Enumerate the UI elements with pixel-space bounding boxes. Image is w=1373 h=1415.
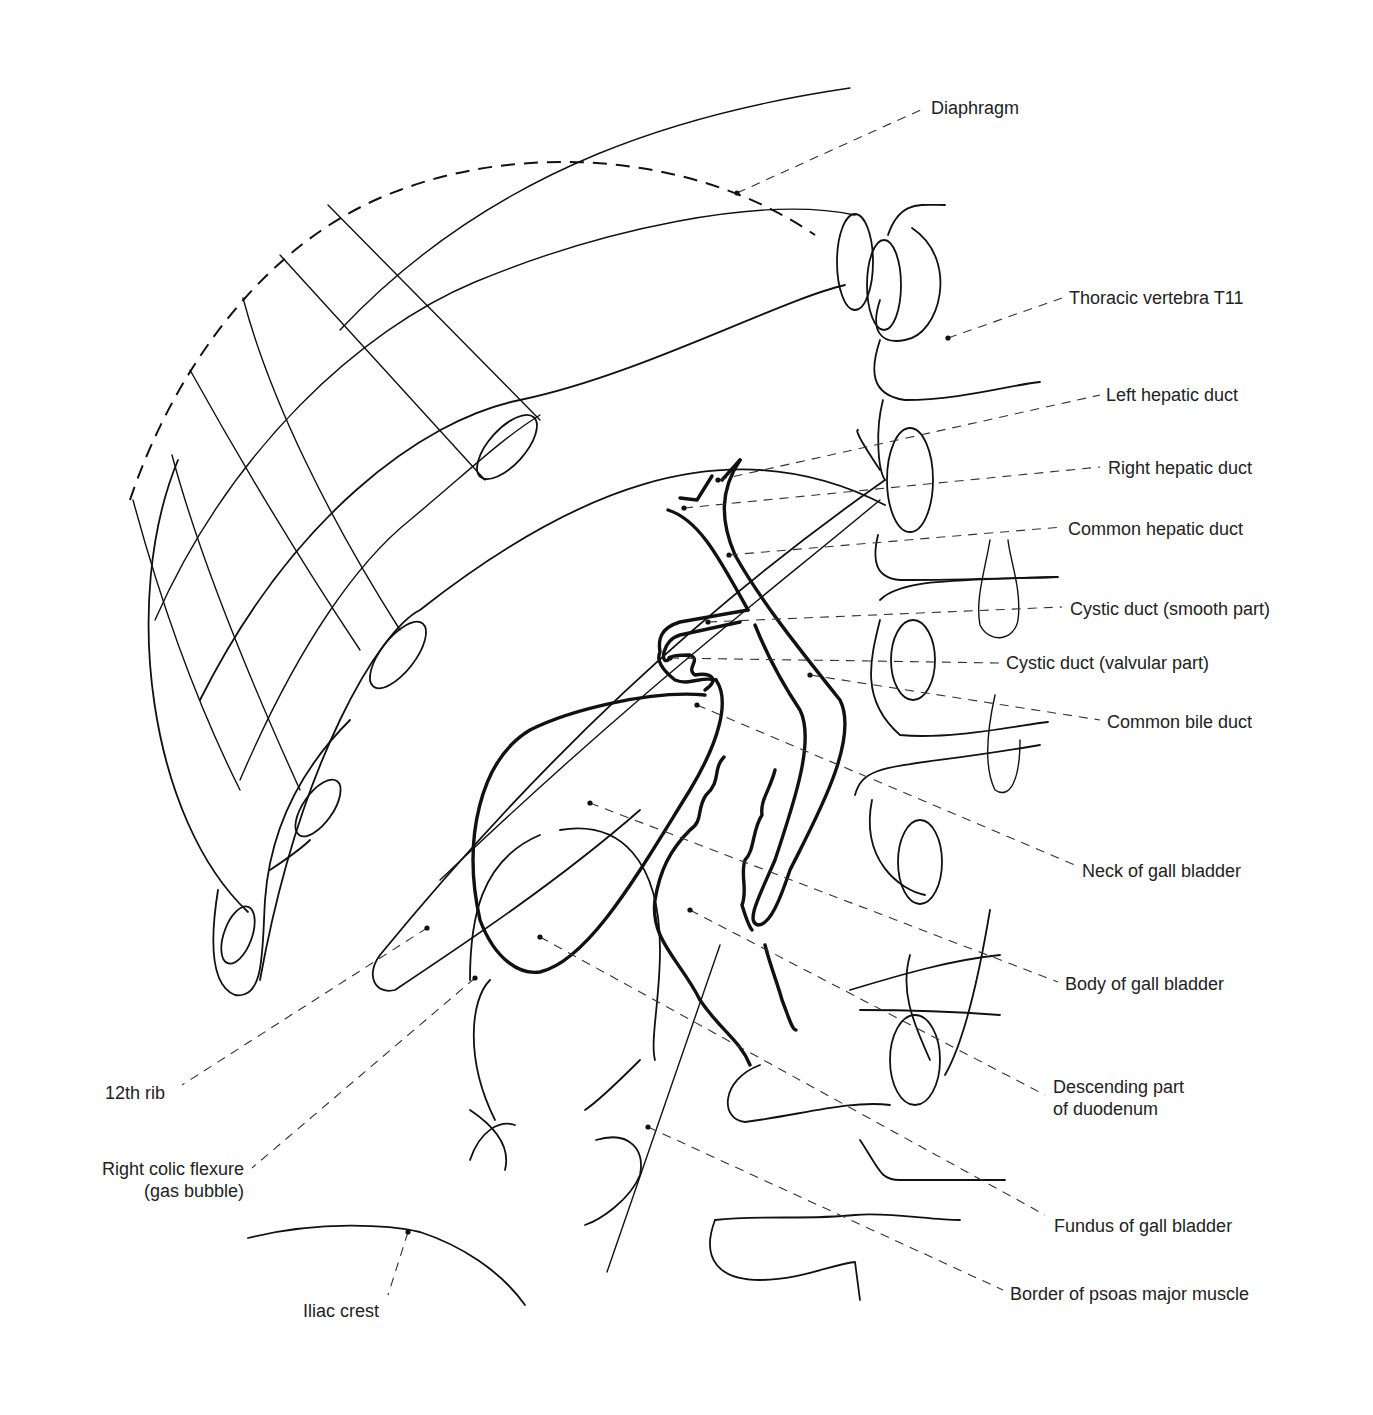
label-body-of-gall-bladder: Body of gall bladder	[1065, 973, 1224, 995]
label-iliac-crest: Iliac crest	[303, 1300, 379, 1322]
label-descending-duodenum: Descending part of duodenum	[1053, 1076, 1184, 1120]
label-neck-of-gall-bladder: Neck of gall bladder	[1082, 860, 1241, 882]
label-fundus-of-gall-bladder: Fundus of gall bladder	[1054, 1215, 1232, 1237]
label-twelfth-rib: 12th rib	[105, 1082, 165, 1104]
label-border-psoas: Border of psoas major muscle	[1010, 1283, 1249, 1305]
anatomy-diagram	[0, 0, 1373, 1415]
vertebral-column	[710, 205, 1058, 1300]
label-common-hepatic-duct: Common hepatic duct	[1068, 518, 1243, 540]
label-left-hepatic-duct: Left hepatic duct	[1106, 384, 1238, 406]
label-diaphragm: Diaphragm	[931, 97, 1019, 119]
label-descending-duodenum-line1: Descending part	[1053, 1076, 1184, 1098]
leader-lines	[182, 108, 1100, 1295]
label-common-bile-duct: Common bile duct	[1107, 711, 1252, 733]
gall-bladder-outline	[473, 680, 722, 972]
label-descending-duodenum-line2: of duodenum	[1053, 1098, 1184, 1120]
label-right-colic-flexure-line1: Right colic flexure	[72, 1158, 244, 1180]
label-cystic-duct-valvular: Cystic duct (valvular part)	[1006, 652, 1209, 674]
twelfth-rib-shape	[373, 480, 885, 991]
ribs	[133, 205, 885, 995]
psoas-border-line	[607, 945, 720, 1272]
label-thoracic-vertebra-t11: Thoracic vertebra T11	[1069, 287, 1243, 309]
label-right-hepatic-duct: Right hepatic duct	[1108, 457, 1252, 479]
colon-outline	[470, 829, 660, 1226]
iliac-crest-line	[248, 1226, 525, 1305]
label-cystic-duct-smooth: Cystic duct (smooth part)	[1070, 598, 1270, 620]
right-hepatic-duct	[680, 476, 712, 500]
label-right-colic-flexure-line2: (gas bubble)	[72, 1180, 244, 1202]
diaphragm-outline	[130, 162, 815, 500]
label-right-colic-flexure: Right colic flexure (gas bubble)	[72, 1158, 244, 1202]
